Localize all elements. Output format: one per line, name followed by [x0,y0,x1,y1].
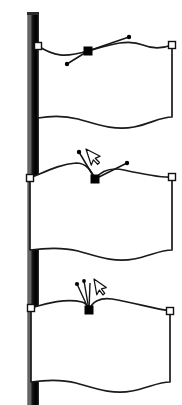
flagpole-top-cap [27,12,39,15]
flag-outline-top[interactable] [38,42,172,128]
anchor-top-right[interactable] [169,42,176,49]
handle-knob-in-middle[interactable] [77,150,81,154]
handle-knob-out-middle[interactable] [125,161,129,165]
anchor-middle-right[interactable] [169,174,176,181]
flag-outline-middle[interactable] [30,163,172,260]
selected-node-middle[interactable] [91,175,100,184]
anchor-bottom-right[interactable] [167,308,174,315]
anchor-top-left[interactable] [35,43,42,50]
selected-node-top[interactable] [84,47,93,56]
anchor-middle-left[interactable] [27,175,34,182]
selected-node-bottom[interactable] [85,306,94,315]
anchor-bottom-left[interactable] [28,305,35,312]
flag-node-illustration [0,0,182,405]
flag-outline-bottom[interactable] [31,299,170,393]
handle-knob-in-bottom[interactable] [75,282,79,286]
handle-knob-out-top[interactable] [127,35,131,39]
handle-knob-out-bottom[interactable] [82,279,86,283]
handle-knob-in-top[interactable] [65,62,69,66]
